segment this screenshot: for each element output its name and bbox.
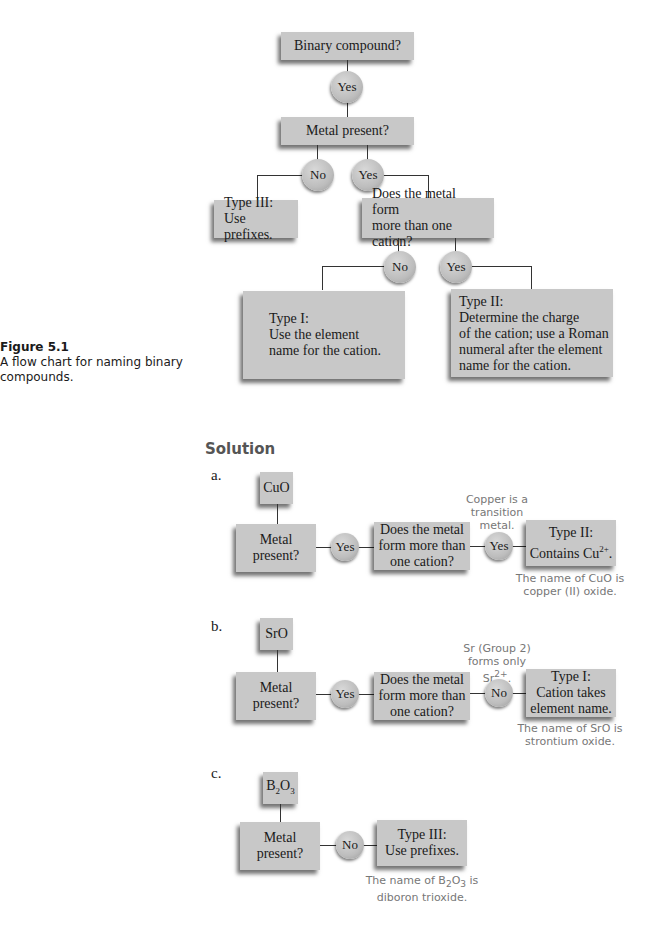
binary-compound-box: Binary compound? xyxy=(281,32,414,60)
box-line: Type I: xyxy=(269,311,405,327)
box-line: Type III: xyxy=(397,827,446,843)
yes-node: Yes xyxy=(440,251,472,283)
box-line: Type I: xyxy=(551,669,591,685)
node-text: No xyxy=(310,167,326,183)
node-text: Yes xyxy=(490,538,509,554)
text: . xyxy=(609,545,613,560)
connector xyxy=(322,266,387,267)
box-line: present? xyxy=(253,548,300,564)
box-text: Binary compound? xyxy=(294,38,401,54)
box-text: SrO xyxy=(265,626,288,642)
superscript: 2+ xyxy=(494,669,507,679)
box-line: Type III: xyxy=(224,195,288,211)
connector xyxy=(531,266,532,289)
type-iii-box: Type III: Use prefixes. xyxy=(214,200,298,238)
node-text: Yes xyxy=(336,539,355,555)
type-ii-result-box: Type II: Contains Cu2+. xyxy=(526,520,616,566)
note-line: The name of B2O3 is xyxy=(362,874,482,891)
yes-node: Yes xyxy=(331,680,359,708)
conclusion-note: The name of CuO is copper (II) oxide. xyxy=(510,572,630,598)
connector xyxy=(380,175,428,176)
part-a-label: a. xyxy=(211,467,221,484)
subscript: 3 xyxy=(290,785,295,795)
type-ii-box: Type II: Determine the charge of the cat… xyxy=(451,289,613,377)
box-line: one cation? xyxy=(390,704,454,720)
connector xyxy=(277,504,278,524)
box-line: Type II: xyxy=(459,294,613,310)
part-c-label: c. xyxy=(211,765,221,782)
part-b-label: b. xyxy=(211,618,222,635)
yes-node: Yes xyxy=(331,533,359,561)
box-line: Metal xyxy=(260,532,293,548)
box-line: Use the element xyxy=(269,327,405,343)
text: B xyxy=(266,778,275,793)
box-line: Does the metal xyxy=(380,522,464,538)
figure-caption: A flow chart for naming binary compounds… xyxy=(0,355,215,385)
figure-title: Figure 5.1 xyxy=(0,340,69,354)
connector xyxy=(257,175,307,176)
box-line: element name. xyxy=(530,701,612,717)
box-line: more than one cation? xyxy=(372,218,484,250)
box-text: B2O3 xyxy=(266,778,294,799)
box-line: numeral after the element xyxy=(459,342,613,358)
connector xyxy=(277,650,278,672)
node-text: Yes xyxy=(359,167,378,183)
note-line: Sr (Group 2) xyxy=(462,642,532,655)
box-line: Does the metal form xyxy=(372,186,484,218)
note-line: diboron trioxide. xyxy=(362,891,482,904)
box-line: Cation takes xyxy=(536,685,606,701)
text: O xyxy=(280,778,290,793)
note-line: The name of CuO is xyxy=(510,572,630,585)
box-line: Use prefixes. xyxy=(385,843,459,859)
type-iii-result-box: Type III: Use prefixes. xyxy=(377,820,467,866)
b2o3-box: B2O3 xyxy=(263,772,298,804)
box-line: Use prefixes. xyxy=(224,211,288,243)
conclusion-note: The name of SrO is strontium oxide. xyxy=(510,722,630,748)
connector xyxy=(280,804,281,824)
connector xyxy=(468,266,531,267)
box-line: Metal xyxy=(264,830,297,846)
box-line: Metal xyxy=(260,680,293,696)
note-line: metal. xyxy=(462,519,532,532)
metal-present-box: Metal present? xyxy=(236,524,316,572)
note-line: copper (II) oxide. xyxy=(510,585,630,598)
node-text: No xyxy=(342,837,358,853)
node-text: Yes xyxy=(447,259,466,275)
box-line: Type II: xyxy=(549,525,594,541)
annotation-note: Copper is a transition metal. xyxy=(462,493,532,532)
no-node: No xyxy=(384,251,416,283)
box-line: one cation? xyxy=(390,554,454,570)
note-line: The name of SrO is xyxy=(510,722,630,735)
note-line: transition xyxy=(462,506,532,519)
yes-node: Yes xyxy=(485,532,513,560)
connector xyxy=(322,266,323,290)
solution-heading: Solution xyxy=(205,440,275,458)
text: Contains Cu xyxy=(530,545,600,560)
text: The name of B xyxy=(366,874,446,887)
box-line: present? xyxy=(257,846,304,862)
box-line: Contains Cu2+. xyxy=(530,541,613,562)
yes-node: Yes xyxy=(331,71,363,103)
box-line: name for the cation. xyxy=(269,343,405,359)
box-line: Does the metal xyxy=(380,672,464,688)
box-line: form more than xyxy=(378,688,465,704)
note-line: strontium oxide. xyxy=(510,735,630,748)
no-node: No xyxy=(302,159,334,191)
box-line: Determine the charge xyxy=(459,310,613,326)
cuo-box: CuO xyxy=(260,472,293,504)
box-text: CuO xyxy=(263,480,289,496)
box-line: name for the cation. xyxy=(459,358,613,374)
type-i-box: Type I: Use the element name for the cat… xyxy=(243,291,405,379)
more-than-one-cation-box: Does the metal form more than one cation… xyxy=(374,672,470,720)
sro-box: SrO xyxy=(260,618,293,650)
note-line: Copper is a xyxy=(462,493,532,506)
metal-present-box: Metal present? xyxy=(240,822,320,870)
no-node: No xyxy=(485,679,513,707)
node-text: Yes xyxy=(338,79,357,95)
superscript: 2+ xyxy=(599,544,609,554)
box-line: present? xyxy=(253,696,300,712)
note-line: forms only xyxy=(462,655,532,668)
node-text: Yes xyxy=(336,686,355,702)
more-than-one-cation-box: Does the metal form more than one cation… xyxy=(374,522,470,570)
type-i-result-box: Type I: Cation takes element name. xyxy=(526,669,616,717)
